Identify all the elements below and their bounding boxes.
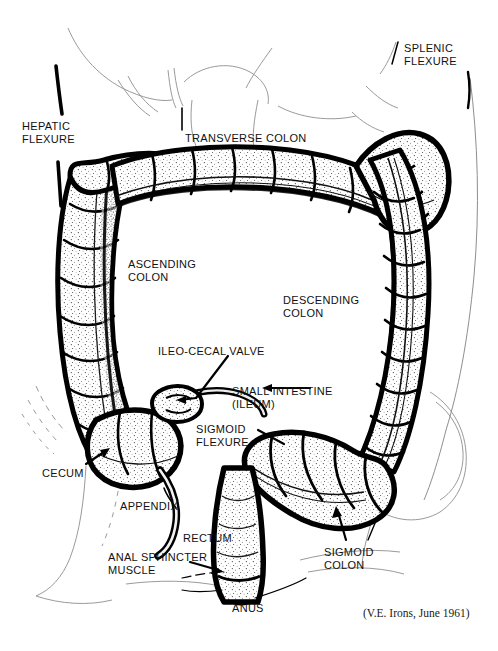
label-ascending-colon: ASCENDING COLON	[128, 258, 196, 284]
label-rectum: RECTUM	[183, 532, 232, 545]
label-descending-colon: DESCENDING COLON	[283, 294, 359, 320]
label-small-intestine-ileum: SMALL INTESTINE (ILEUM)	[232, 385, 333, 411]
colon-anatomy-figure: HEPATIC FLEXURE TRANSVERSE COLON SPLENIC…	[0, 0, 498, 651]
label-sigmoid-flexure: SIGMOID FLEXURE	[196, 423, 249, 449]
label-cecum: CECUM	[42, 467, 84, 480]
label-hepatic-flexure: HEPATIC FLEXURE	[22, 120, 75, 146]
label-splenic-flexure: SPLENIC FLEXURE	[404, 42, 457, 68]
label-anus: ANUS	[232, 602, 264, 615]
label-appendix: APPENDIX	[120, 500, 178, 513]
label-anal-sphincter-muscle: ANAL SPHINCTER MUSCLE	[108, 551, 207, 577]
credit-attribution: (V.E. Irons, June 1961)	[363, 607, 469, 619]
colon-illustration	[0, 0, 498, 651]
label-transverse-colon: TRANSVERSE COLON	[185, 132, 307, 145]
label-sigmoid-colon: SIGMOID COLON	[324, 546, 374, 572]
label-ileo-cecal-valve: ILEO-CECAL VALVE	[158, 345, 265, 358]
